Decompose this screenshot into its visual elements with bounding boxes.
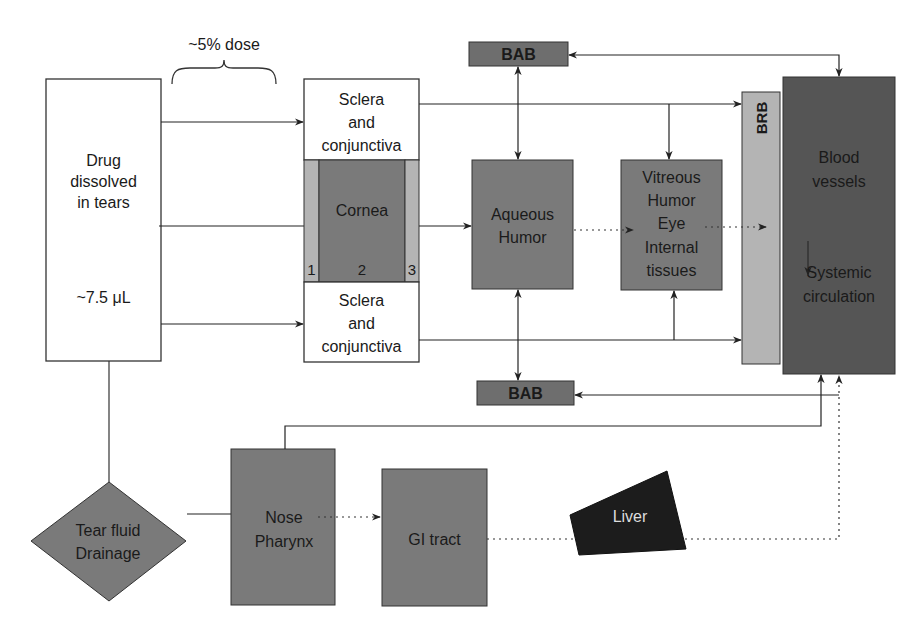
bab-bottom-box: BAB xyxy=(477,381,574,405)
svg-text:~7.5 μL: ~7.5 μL xyxy=(76,289,130,306)
svg-text:Cornea: Cornea xyxy=(336,202,389,219)
aqueous-humor-box: Aqueous Humor xyxy=(472,160,573,289)
svg-text:dissolved: dissolved xyxy=(70,173,137,190)
blood-vessels-box: Blood vessels Systemic circulation xyxy=(783,77,895,374)
svg-text:BRB: BRB xyxy=(753,102,770,135)
brb-bar: BRB xyxy=(742,92,780,364)
svg-text:2: 2 xyxy=(358,261,366,278)
svg-text:Systemic: Systemic xyxy=(807,264,872,281)
svg-text:Blood: Blood xyxy=(819,149,860,166)
svg-text:Internal: Internal xyxy=(645,239,698,256)
gi-tract-box: GI tract xyxy=(382,469,487,606)
svg-text:circulation: circulation xyxy=(803,288,875,305)
svg-text:and: and xyxy=(348,315,375,332)
svg-text:Humor: Humor xyxy=(647,192,696,209)
svg-text:Aqueous: Aqueous xyxy=(491,206,554,223)
arrow-blood-to-bab-top xyxy=(569,55,839,76)
dose-label: ~5% dose xyxy=(188,36,260,53)
svg-text:Tear fluid: Tear fluid xyxy=(76,522,141,539)
svg-text:tissues: tissues xyxy=(647,262,697,279)
sclera-bottom-box: Sclera and conjunctiva xyxy=(304,282,419,362)
bab-top-box: BAB xyxy=(469,42,568,66)
svg-text:Sclera: Sclera xyxy=(339,292,384,309)
svg-text:Drainage: Drainage xyxy=(76,545,141,562)
sclera-top-box: Sclera and conjunctiva xyxy=(304,79,419,160)
svg-text:Drug: Drug xyxy=(86,152,121,169)
svg-text:and: and xyxy=(348,114,375,131)
svg-text:Pharynx: Pharynx xyxy=(255,533,314,550)
svg-text:conjunctiva: conjunctiva xyxy=(321,338,401,355)
svg-text:conjunctiva: conjunctiva xyxy=(321,137,401,154)
svg-text:3: 3 xyxy=(408,261,416,278)
svg-text:Eye: Eye xyxy=(658,215,686,232)
liver-shape: Liver xyxy=(570,471,686,555)
drug-distribution-diagram: ~5% dose Drug dissolved in tears ~7.5 μL… xyxy=(0,0,921,629)
svg-text:Nose: Nose xyxy=(265,509,302,526)
svg-text:Vitreous: Vitreous xyxy=(642,169,700,186)
nose-pharynx-box: Nose Pharynx xyxy=(231,449,335,605)
dose-brace xyxy=(172,60,276,84)
svg-text:Liver: Liver xyxy=(613,508,648,525)
svg-text:GI tract: GI tract xyxy=(408,531,461,548)
cornea-box: Cornea 1 2 3 xyxy=(304,160,419,282)
svg-text:1: 1 xyxy=(307,261,315,278)
svg-text:Humor: Humor xyxy=(498,229,547,246)
vitreous-humor-box: Vitreous Humor Eye Internal tissues xyxy=(621,160,722,290)
tear-drainage-diamond: Tear fluid Drainage xyxy=(31,482,186,601)
svg-text:in tears: in tears xyxy=(77,194,129,211)
svg-text:vessels: vessels xyxy=(812,173,865,190)
svg-text:BAB: BAB xyxy=(501,46,536,63)
svg-text:Sclera: Sclera xyxy=(339,91,384,108)
drug-box: Drug dissolved in tears ~7.5 μL xyxy=(46,79,161,361)
svg-text:BAB: BAB xyxy=(508,385,543,402)
